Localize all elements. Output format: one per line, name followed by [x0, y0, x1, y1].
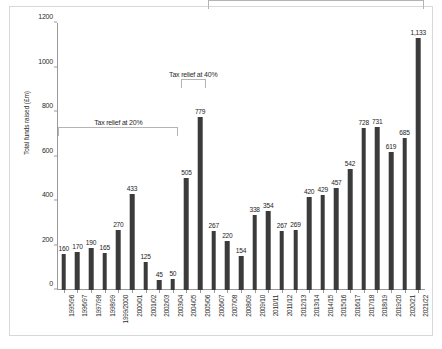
x-axis-tick-mark [296, 290, 297, 293]
bar-value-label: 50 [169, 270, 176, 277]
bar[interactable] [184, 178, 189, 290]
bar[interactable] [225, 241, 230, 290]
x-axis-tick-mark [186, 290, 187, 293]
x-axis-tick-mark [268, 290, 269, 293]
bar-group[interactable]: 1,1332021/22 [411, 23, 425, 290]
bar-group[interactable]: 2672011/12 [275, 23, 289, 290]
bar-group[interactable]: 7792005/06 [193, 23, 207, 290]
bar-group[interactable]: 5422016/17 [343, 23, 357, 290]
bar[interactable] [62, 254, 67, 290]
bar[interactable] [171, 279, 176, 290]
bar-group[interactable]: 452002/03 [152, 23, 166, 290]
bar-group[interactable]: 1651998/99 [98, 23, 112, 290]
tax-relief-bracket: Tax relief at 40% [181, 79, 206, 88]
bar-group[interactable]: 1601995/96 [57, 23, 71, 290]
x-axis-tick-mark [91, 290, 92, 293]
x-axis-tick-label: 2015/16 [340, 295, 347, 317]
tax-relief-bracket: Tax relief at 30% [208, 0, 423, 9]
bar[interactable] [293, 230, 298, 290]
bar-group[interactable]: 5052004/05 [180, 23, 194, 290]
bar[interactable] [116, 230, 121, 290]
x-axis-tick-label: 1997/98 [95, 295, 102, 317]
bar-value-label: 190 [86, 239, 96, 246]
x-axis-tick-label: 2017/18 [367, 295, 374, 317]
bar-value-label: 160 [59, 245, 69, 252]
x-axis-tick-mark [418, 290, 419, 293]
bar[interactable] [416, 38, 421, 290]
bar-group[interactable]: 2672006/07 [207, 23, 221, 290]
bar[interactable] [307, 197, 312, 290]
bar-group[interactable]: 1252001/02 [139, 23, 153, 290]
bar-value-label: 170 [72, 243, 82, 250]
bar[interactable] [211, 231, 216, 290]
bar[interactable] [334, 188, 339, 290]
bar-group[interactable]: 2701999/2000 [112, 23, 126, 290]
x-axis-tick-label: 2020/21 [408, 295, 415, 317]
bar-group[interactable]: 4332000/01 [125, 23, 139, 290]
bar-group[interactable]: 3542010/11 [261, 23, 275, 290]
bar-group[interactable]: 6192019/20 [384, 23, 398, 290]
bar[interactable] [348, 169, 353, 290]
x-axis-tick-mark [64, 290, 65, 293]
x-axis-tick-label: 2012/13 [299, 295, 306, 317]
bar-value-label: 154 [236, 247, 246, 254]
tax-relief-bracket-label: Tax relief at 40% [169, 71, 217, 78]
bar[interactable] [252, 215, 257, 290]
bar-value-label: 457 [331, 179, 341, 186]
x-axis-tick-label: 2019/20 [394, 295, 401, 317]
bar[interactable] [75, 252, 80, 290]
bar[interactable] [102, 253, 107, 290]
bar-group[interactable]: 2692012/13 [289, 23, 303, 290]
bar[interactable] [280, 231, 285, 290]
bar-group[interactable]: 2202007/08 [221, 23, 235, 290]
y-axis-tick-label: 200 [42, 235, 53, 242]
x-axis-tick-label: 2014/15 [326, 295, 333, 317]
x-axis-tick-label: 2002/03 [163, 295, 170, 317]
tax-relief-bracket: Tax relief at 20% [58, 127, 178, 136]
x-axis-tick-label: 1996/97 [81, 295, 88, 317]
x-axis-tick-mark [323, 290, 324, 293]
bar-value-label: 619 [386, 143, 396, 150]
bar-group[interactable]: 1542008/09 [234, 23, 248, 290]
y-axis-tick-label: 600 [42, 146, 53, 153]
x-axis-tick-label: 2004/05 [190, 295, 197, 317]
x-axis-tick-label: 2016/17 [354, 295, 361, 317]
bar[interactable] [266, 211, 271, 290]
bar-group[interactable]: 3382009/10 [248, 23, 262, 290]
y-axis-title: Total funds raised (£m) [23, 91, 30, 155]
x-axis-tick-label: 2005/06 [204, 295, 211, 317]
bar[interactable] [361, 128, 366, 290]
bar[interactable] [389, 152, 394, 290]
bar[interactable] [239, 256, 244, 290]
bar[interactable] [143, 262, 148, 290]
x-axis-tick-mark [173, 290, 174, 293]
bar[interactable] [130, 194, 135, 290]
bar[interactable] [375, 127, 380, 290]
x-axis-tick-label: 2013/14 [313, 295, 320, 317]
bar[interactable] [320, 195, 325, 290]
bar[interactable] [198, 117, 203, 290]
bar-group[interactable]: 7312018/19 [370, 23, 384, 290]
bar-value-label: 338 [249, 206, 259, 213]
bar-value-label: 267 [209, 222, 219, 229]
bar[interactable] [157, 280, 162, 290]
x-axis-tick-label: 1999/2000 [122, 295, 129, 323]
x-axis-tick-label: 1995/96 [67, 295, 74, 317]
bar-group[interactable]: 1701996/97 [71, 23, 85, 290]
bar[interactable] [402, 138, 407, 290]
plot-area: 020040060080010001200 1601995/961701996/… [57, 23, 425, 290]
y-axis-tick-label: 400 [42, 191, 53, 198]
bar-group[interactable]: 4572015/16 [330, 23, 344, 290]
bar-value-label: 420 [304, 188, 314, 195]
tax-relief-bracket-label: Tax relief at 20% [94, 119, 142, 126]
chart-container: Total funds raised (£m) 0200400600800100… [9, 6, 433, 336]
bar-value-label: 779 [195, 108, 205, 115]
bar-group[interactable]: 4292014/15 [316, 23, 330, 290]
bar[interactable] [89, 248, 94, 290]
bar-group[interactable]: 6852020/21 [398, 23, 412, 290]
bar-group[interactable]: 7282017/18 [357, 23, 371, 290]
bar-value-label: 731 [372, 118, 382, 125]
bar-group[interactable]: 1901997/98 [84, 23, 98, 290]
bar-group[interactable]: 4202013/14 [302, 23, 316, 290]
bar-group[interactable]: 502003/04 [166, 23, 180, 290]
